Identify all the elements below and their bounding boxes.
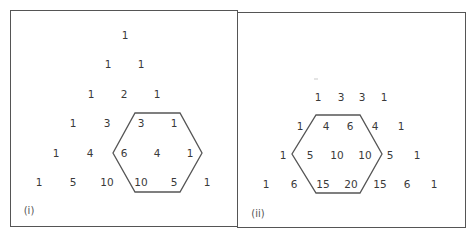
cell-r5-c0: 1: [36, 177, 43, 188]
cell-r3-c0: 1: [263, 179, 270, 190]
cell-r2-c2: 10: [330, 150, 343, 161]
panel-ii-label: (ii): [251, 208, 264, 219]
cell-r2-c2: 1: [154, 89, 161, 100]
cell-r1-c0: 1: [297, 121, 304, 132]
panel-i-label: (i): [24, 205, 35, 216]
cell-r1-c4: 1: [398, 121, 405, 132]
cell-r3-c2: 3: [138, 118, 145, 129]
cell-r3-c3: 1: [171, 118, 178, 129]
panel-i-frame: [10, 10, 238, 227]
cell-r1-c1: 1: [138, 59, 145, 70]
cell-r0-c1: 3: [338, 92, 345, 103]
cell-r2-c0: 1: [280, 150, 287, 161]
cell-r1-c1: 4: [323, 121, 330, 132]
cell-r3-c3: 20: [344, 179, 357, 190]
cell-r4-c2: 6: [121, 148, 128, 159]
cell-r0-c0: 1: [122, 30, 129, 41]
cell-r0-c2: 3: [359, 92, 366, 103]
cell-r5-c4: 5: [171, 177, 178, 188]
cell-r1-c0: 1: [105, 59, 112, 70]
cell-r5-c1: 5: [70, 177, 77, 188]
cell-r5-c3: 10: [134, 177, 147, 188]
cell-r0-c0: 1: [315, 92, 322, 103]
cell-r4-c0: 1: [53, 148, 60, 159]
cell-r2-c4: 5: [387, 150, 394, 161]
cell-r3-c5: 6: [404, 179, 411, 190]
cell-r4-c1: 4: [87, 148, 94, 159]
cell-r2-c1: 5: [307, 150, 314, 161]
cell-r1-c3: 4: [372, 121, 379, 132]
cell-r3-c6: 1: [431, 179, 438, 190]
cell-r2-c1: 2: [121, 89, 128, 100]
cell-r0-c3: 1: [381, 92, 388, 103]
cell-r5-c2: 10: [100, 177, 113, 188]
cell-r4-c4: 1: [187, 148, 194, 159]
cell-r3-c2: 15: [316, 179, 329, 190]
cell-r2-c3: 10: [358, 150, 371, 161]
cell-r1-c2: 6: [347, 121, 354, 132]
cell-r3-c1: 6: [291, 179, 298, 190]
cell-r3-c4: 15: [373, 179, 386, 190]
cell-r2-c0: 1: [88, 89, 95, 100]
cell-r2-c5: 1: [414, 150, 421, 161]
cell-r4-c3: 4: [154, 148, 161, 159]
cell-r3-c1: 3: [104, 118, 111, 129]
cell-r5-c5: 1: [204, 177, 211, 188]
cell-r3-c0: 1: [70, 118, 77, 129]
